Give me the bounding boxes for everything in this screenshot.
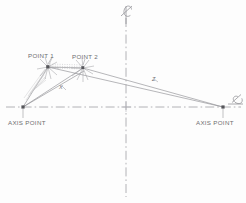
line-left-axis-to-point-1 xyxy=(23,67,48,107)
dimension-z-label: Z xyxy=(152,76,156,82)
marker-point-2 xyxy=(81,66,84,69)
centerline-intersection xyxy=(121,102,131,112)
point-1-label: POINT 1 xyxy=(28,52,54,59)
axis-point-right-label: AXIS POINT xyxy=(196,119,234,126)
construction-lines xyxy=(6,18,241,197)
line-left-axis-to-point-2-lower xyxy=(23,71,84,107)
line-point-1-to-right-axis xyxy=(48,67,223,107)
line-left-axis-to-point-2 xyxy=(23,68,83,107)
marker-axis-point-left xyxy=(21,105,24,108)
diagram-canvas xyxy=(0,0,246,203)
marker-axis-point-right xyxy=(221,105,224,108)
technical-diagram: POINT 1 POINT 2 AXIS POINT AXIS POINT X … xyxy=(0,0,246,203)
hatch-band xyxy=(24,69,47,100)
node-markers xyxy=(21,65,224,108)
line-point-2-to-right-axis xyxy=(83,68,223,107)
point-2-label: POINT 2 xyxy=(72,53,98,60)
dimension-x-label: X xyxy=(59,84,63,90)
centerline-symbol-top xyxy=(121,6,132,24)
dimension-ticks xyxy=(62,79,158,90)
marker-point-1 xyxy=(46,65,49,68)
geometry-lines xyxy=(23,67,223,107)
axis-point-left-label: AXIS POINT xyxy=(8,119,46,126)
centerline-symbol-right xyxy=(228,95,243,105)
